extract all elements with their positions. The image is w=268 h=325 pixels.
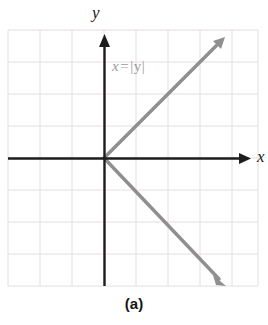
- y-axis-label: y: [92, 4, 100, 21]
- equation-operator: =: [119, 58, 130, 74]
- x-axis-arrowhead: [239, 153, 251, 164]
- curve-arrowheads: [213, 37, 226, 286]
- y-axis-arrowhead: [99, 34, 110, 47]
- axes: [8, 44, 244, 286]
- graph-canvas: [0, 0, 268, 325]
- curve-lower-branch: [104, 158, 219, 279]
- axis-arrowheads: [99, 34, 251, 164]
- equation-label: x=|y|: [112, 59, 145, 74]
- x-axis-label: x: [257, 148, 265, 165]
- figure-container: y x x=|y| (a): [0, 0, 268, 325]
- equation-rhs: |y|: [130, 58, 145, 74]
- curve-x-equals-abs-y: [104, 43, 219, 279]
- figure-caption: (a): [0, 296, 268, 311]
